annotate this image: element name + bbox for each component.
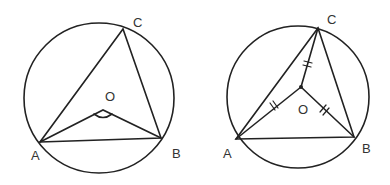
tick-oa: [270, 101, 278, 110]
right-figure: C O A B: [223, 12, 371, 168]
angle-aob-arc: [94, 114, 112, 118]
left-figure: C O A B: [24, 15, 181, 173]
label-c: C: [133, 15, 142, 30]
circumcircle: [227, 26, 369, 168]
label-b: B: [172, 146, 181, 161]
geometry-diagram: C O A B C O A B: [0, 0, 390, 185]
label-a: A: [31, 148, 40, 163]
label-o: O: [105, 89, 115, 104]
label-b: B: [362, 141, 371, 156]
label-o: O: [298, 102, 308, 117]
radius-oc: [301, 28, 318, 87]
label-c: C: [327, 12, 336, 27]
triangle-abc: [236, 28, 354, 139]
center-point-o: [299, 85, 303, 89]
radii-oa-ob: [40, 110, 161, 142]
triangle-abc: [40, 29, 161, 142]
circumcircle: [24, 23, 174, 173]
label-a: A: [223, 146, 232, 161]
